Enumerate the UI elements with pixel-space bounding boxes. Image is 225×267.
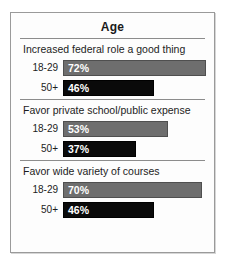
- bar-18-29: 53%: [63, 121, 168, 137]
- bar-track: 70%: [63, 182, 206, 198]
- bar-track: 53%: [63, 121, 206, 137]
- chart-group: Favor private school/public expense 18-2…: [19, 103, 206, 158]
- bar-18-29: 70%: [63, 182, 202, 198]
- age-chart-card: Age Increased federal role a good thing …: [10, 12, 215, 253]
- chart-group: Favor wide variety of courses 18-29 70% …: [19, 164, 206, 219]
- bar-18-29: 72%: [63, 60, 206, 76]
- group-divider: [20, 99, 205, 100]
- bar-row: 50+ 37%: [19, 140, 206, 158]
- bar-category-label: 50+: [19, 82, 63, 94]
- bar-row: 50+ 46%: [19, 79, 206, 97]
- bar-50-plus: 46%: [63, 80, 154, 96]
- group-heading: Favor wide variety of courses: [19, 164, 206, 181]
- chart-title: Age: [19, 20, 206, 38]
- bar-track: 46%: [63, 80, 206, 96]
- bar-track: 37%: [63, 141, 206, 157]
- bar-track: 72%: [63, 60, 206, 76]
- title-divider: [20, 38, 205, 39]
- bar-50-plus: 37%: [63, 141, 136, 157]
- bar-category-label: 18-29: [19, 184, 63, 196]
- bar-value-label: 53%: [64, 123, 89, 135]
- bar-category-label: 18-29: [19, 62, 63, 74]
- bar-row: 18-29 53%: [19, 120, 206, 138]
- group-heading: Increased federal role a good thing: [19, 42, 206, 59]
- bar-category-label: 18-29: [19, 123, 63, 135]
- bar-value-label: 37%: [64, 143, 89, 155]
- bar-row: 18-29 70%: [19, 181, 206, 199]
- bar-50-plus: 46%: [63, 202, 154, 218]
- bar-track: 46%: [63, 202, 206, 218]
- bar-value-label: 70%: [64, 184, 89, 196]
- bar-category-label: 50+: [19, 204, 63, 216]
- bar-value-label: 46%: [64, 82, 89, 94]
- bar-category-label: 50+: [19, 143, 63, 155]
- chart-group: Increased federal role a good thing 18-2…: [19, 42, 206, 97]
- bar-row: 50+ 46%: [19, 201, 206, 219]
- group-heading: Favor private school/public expense: [19, 103, 206, 120]
- group-divider: [20, 160, 205, 161]
- bar-value-label: 46%: [64, 204, 89, 216]
- bar-row: 18-29 72%: [19, 59, 206, 77]
- bar-value-label: 72%: [64, 62, 89, 74]
